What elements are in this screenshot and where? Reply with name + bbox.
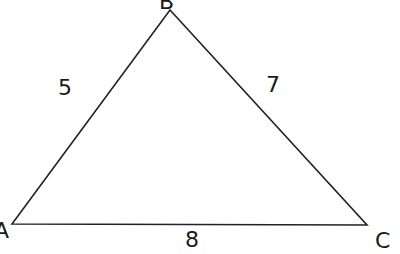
vertex-label-b: B xyxy=(159,0,174,13)
triangle-abc xyxy=(12,10,367,225)
vertex-label-a: A xyxy=(0,220,9,242)
side-label-bc: 7 xyxy=(266,74,280,96)
triangle-figure xyxy=(0,0,400,254)
vertex-label-c: C xyxy=(375,230,390,252)
side-label-ac: 8 xyxy=(185,229,199,251)
side-label-ab: 5 xyxy=(58,77,72,99)
